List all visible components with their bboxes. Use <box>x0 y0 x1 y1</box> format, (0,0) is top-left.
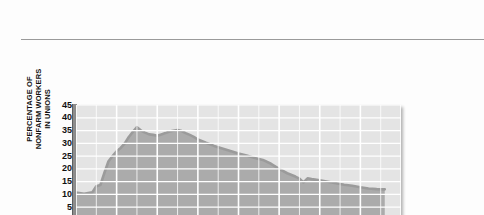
y-axis-title-line-3: IN UNIONS <box>43 89 52 129</box>
plot-area <box>76 105 401 215</box>
y-tick-label: 25 <box>55 152 72 161</box>
y-axis-title: PERCENTAGE OF NONFARM WORKERS IN UNIONS <box>27 49 49 169</box>
horizontal-rule <box>21 39 484 40</box>
y-tick-label: 10 <box>55 190 72 199</box>
y-axis-title-line-1: PERCENTAGE OF <box>25 76 34 141</box>
y-tick-label: 5 <box>55 203 72 212</box>
area-fill <box>76 127 385 215</box>
y-axis-tick-labels: 051015202530354045 <box>55 100 72 215</box>
page-canvas: PERCENTAGE OF NONFARM WORKERS IN UNIONS … <box>0 0 484 215</box>
y-tick-label: 15 <box>55 177 72 186</box>
y-tick-label: 40 <box>55 113 72 122</box>
y-tick-label: 20 <box>55 164 72 173</box>
y-tick-label: 35 <box>55 126 72 135</box>
union-membership-chart: PERCENTAGE OF NONFARM WORKERS IN UNIONS … <box>0 44 484 215</box>
plot-svg <box>76 105 401 215</box>
y-axis-title-line-2: NONFARM WORKERS <box>34 69 43 150</box>
y-tick-label: 30 <box>55 139 72 148</box>
y-tick-label: 45 <box>55 101 72 110</box>
